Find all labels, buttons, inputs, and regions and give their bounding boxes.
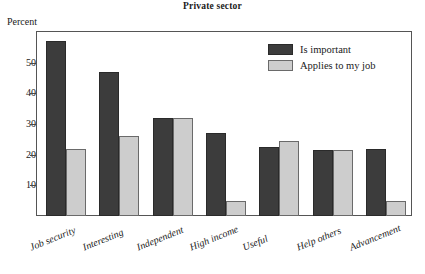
x-label-job-security: Job security [28,224,77,252]
x-label-advancement: Advancement [348,222,402,252]
x-label-independent: Independent [135,224,185,253]
legend-item-applies-to-my-job: Applies to my job [268,60,408,71]
x-label-useful: Useful [241,233,269,253]
x-label-high-income: High income [188,223,240,252]
chart-page: Private sector Percent 1020304050 Job se… [0,0,425,274]
legend-label-applies-to-my-job: Applies to my job [300,60,376,71]
legend-item-is-important: Is important [268,44,408,55]
x-label-help-others: Help others [295,225,343,253]
legend-label-is-important: Is important [300,44,351,55]
x-label-interesting: Interesting [81,226,125,252]
x-axis-category-labels: Job securityInterestingIndependentHigh i… [0,0,425,274]
legend-swatch-is-important [268,44,293,55]
legend-swatch-applies-to-my-job [268,60,293,71]
chart-legend: Is important Applies to my job [268,44,408,76]
